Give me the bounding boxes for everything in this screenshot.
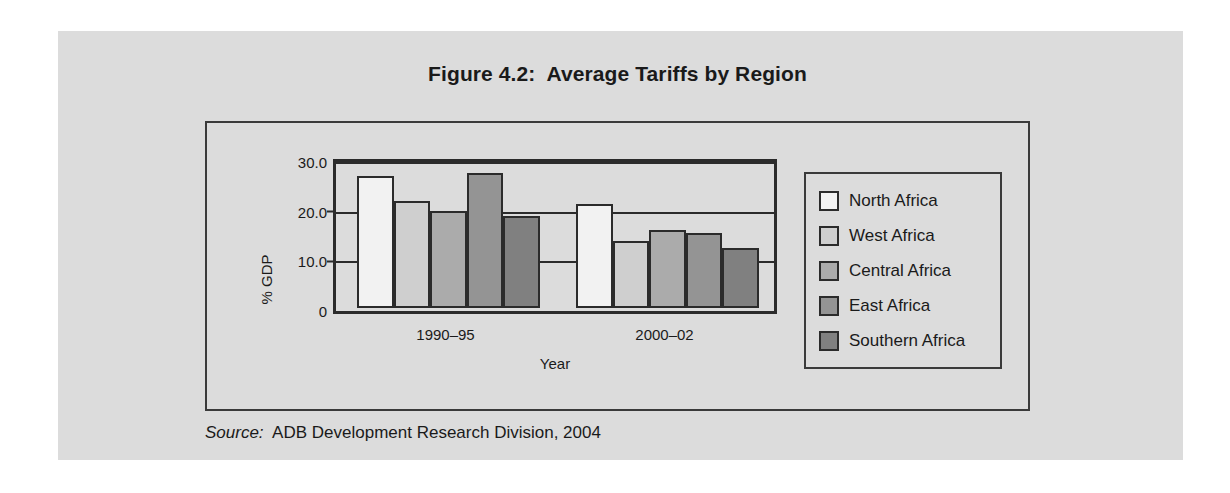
y-tick-10.0: 10.0 (298, 253, 327, 270)
source-text: ADB Development Research Division, 2004 (264, 423, 601, 442)
legend-item[interactable]: Central Africa (819, 253, 1000, 288)
legend-item[interactable]: North Africa (819, 183, 1000, 218)
y-tick-0: 0 (319, 303, 327, 320)
x-tick-label: 1990–95 (416, 326, 474, 343)
x-axis-title: Year (333, 355, 777, 372)
bar (394, 201, 431, 308)
legend-label: North Africa (849, 191, 938, 211)
legend-label: West Africa (849, 226, 935, 246)
bar (503, 216, 540, 308)
bar (357, 176, 394, 308)
bars-layer (339, 165, 771, 308)
bar-group (357, 165, 540, 308)
legend: North AfricaWest AfricaCentral AfricaEas… (804, 172, 1002, 369)
plot-area (333, 159, 777, 314)
legend-item[interactable]: Southern Africa (819, 323, 1000, 358)
legend-swatch-icon (819, 261, 839, 281)
legend-label: East Africa (849, 296, 930, 316)
figure-frame: % GDP 010.020.030.0 1990–952000–02 Year … (205, 121, 1030, 411)
source-label: Source: (205, 423, 264, 442)
bar (686, 233, 723, 308)
gridline-30.0 (336, 162, 774, 164)
legend-swatch-icon (819, 191, 839, 211)
bar (613, 241, 650, 308)
bar-group (576, 165, 759, 308)
legend-label: Southern Africa (849, 331, 965, 351)
bar (576, 204, 613, 308)
bar (722, 248, 759, 308)
bar (430, 211, 467, 308)
x-tick-label: 2000–02 (635, 326, 693, 343)
bar (649, 230, 686, 308)
y-tick-30.0: 30.0 (298, 154, 327, 171)
y-axis-tick-labels: 010.020.030.0 (243, 159, 327, 314)
source-note: Source: ADB Development Research Divisio… (205, 423, 601, 443)
legend-label: Central Africa (849, 261, 951, 281)
legend-swatch-icon (819, 226, 839, 246)
legend-swatch-icon (819, 296, 839, 316)
y-tick-20.0: 20.0 (298, 203, 327, 220)
bar (467, 173, 504, 308)
legend-swatch-icon (819, 331, 839, 351)
legend-item[interactable]: East Africa (819, 288, 1000, 323)
legend-item[interactable]: West Africa (819, 218, 1000, 253)
bar-chart: % GDP 010.020.030.0 1990–952000–02 Year … (207, 123, 1032, 413)
figure-title: Figure 4.2: Average Tariffs by Region (205, 62, 1030, 86)
